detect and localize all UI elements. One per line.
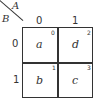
cell-value: b bbox=[36, 75, 43, 86]
cell-value: c bbox=[72, 75, 78, 86]
col-header-1: 1 bbox=[72, 16, 78, 26]
cell-index: 3 bbox=[87, 65, 91, 71]
cell-index: 1 bbox=[52, 65, 56, 71]
cell-index: 0 bbox=[51, 30, 55, 36]
row-header-0: 0 bbox=[12, 39, 18, 49]
cell-index: 2 bbox=[87, 30, 91, 36]
row-variable-label: B bbox=[2, 14, 9, 24]
row-header-1: 1 bbox=[13, 75, 19, 85]
cell-value: a bbox=[36, 39, 43, 50]
grid-divider-horizontal bbox=[22, 62, 93, 64]
col-header-0: 0 bbox=[36, 16, 42, 26]
col-variable-label: A bbox=[12, 1, 19, 11]
cell-value: d bbox=[72, 39, 79, 50]
